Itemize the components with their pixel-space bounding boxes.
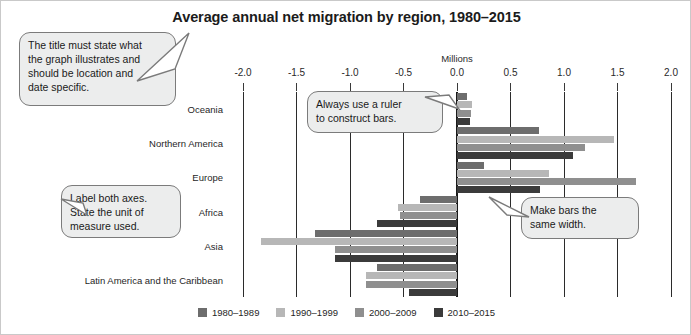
bar [335,255,457,262]
gridline [296,92,297,297]
x-axis-tick-mark [296,83,297,91]
gridline [510,92,511,297]
gridline [617,92,618,297]
x-axis-tick-mark [510,83,511,91]
x-axis-tick-mark [350,83,351,91]
axes-callout-line-1: Label both axes. [70,192,172,206]
width-callout-line-2: same width. [530,218,630,232]
x-axis-tick-label: 0.5 [504,67,518,78]
y-axis-category-label: Latin America and the Caribbean [41,274,223,285]
legend-item: 2010–2015 [434,307,496,318]
bar [457,110,471,117]
bar [457,101,472,108]
title-callout-line-3: should be location and [28,67,167,81]
legend-label: 2000–2009 [369,307,417,318]
bar [366,272,457,279]
bar [457,118,470,125]
legend-label: 1990–1999 [290,307,338,318]
bar [457,127,539,134]
y-axis-category-label: Asia [41,240,223,251]
x-axis-tick-label: 1.0 [557,67,571,78]
x-axis-tick-mark [243,83,244,91]
width-callout-line-1: Make bars the [530,204,630,218]
bar [377,220,457,227]
bar [366,281,457,288]
legend-swatch-icon [434,308,443,317]
x-axis-tick-mark [617,83,618,91]
x-axis-tick-mark [403,83,404,91]
title-callout: The title must state what the graph illu… [19,32,176,106]
legend-item: 2000–2009 [355,307,417,318]
legend-item: 1990–1999 [276,307,338,318]
width-callout: Make bars the same width. [521,197,639,239]
gridline [671,92,672,297]
bar [457,178,636,185]
axes-callout-line-3: measure used. [70,220,172,234]
bar [261,238,457,245]
x-axis-tick-label: -1.0 [341,67,358,78]
x-axis-tick-label: -0.5 [395,67,412,78]
gridline [564,92,565,297]
title-callout-line-2: the graph illustrates and [28,53,167,67]
bar [315,230,457,237]
x-axis-tick-label: 1.5 [611,67,625,78]
legend-item: 1980–1989 [198,307,260,318]
chart-figure: Average annual net migration by region, … [0,0,691,335]
legend-swatch-icon [355,308,364,317]
x-axis-tick-mark [457,83,458,91]
gridline [243,92,244,297]
y-axis-category-label: Europe [41,172,223,183]
title-callout-line-4: date specific. [28,81,167,95]
x-axis-tick-label: 0.0 [450,67,464,78]
bar [377,264,457,271]
bar [457,186,540,193]
bar [420,196,457,203]
x-axis-tick-label: -2.0 [234,67,251,78]
x-axis-tick-label: 2.0 [664,67,678,78]
bar [400,212,457,219]
bar [457,144,585,151]
bar [457,93,467,100]
x-axis-tick-mark [671,83,672,91]
chart-legend: 1980–19891990–19992000–20092010–2015 [1,307,691,318]
ruler-callout: Always use a ruler to construct bars. [307,91,443,133]
bar [457,170,549,177]
x-axis-tick-mark [564,83,565,91]
bar [457,136,614,143]
legend-swatch-icon [276,308,285,317]
title-callout-line-1: The title must state what [28,39,167,53]
legend-swatch-icon [198,308,207,317]
legend-label: 1980–1989 [212,307,260,318]
axes-callout-line-2: State the unit of [70,206,172,220]
x-axis-tick-label: -1.5 [288,67,305,78]
legend-label: 2010–2015 [448,307,496,318]
ruler-callout-line-2: to construct bars. [316,112,434,126]
bar [409,289,457,296]
axes-callout: Label both axes. State the unit of measu… [61,185,181,238]
bar [335,246,457,253]
bar [457,162,484,169]
bar [457,152,573,159]
y-axis-category-label: Northern America [41,138,223,149]
bar [398,204,457,211]
ruler-callout-line-1: Always use a ruler [316,98,434,112]
